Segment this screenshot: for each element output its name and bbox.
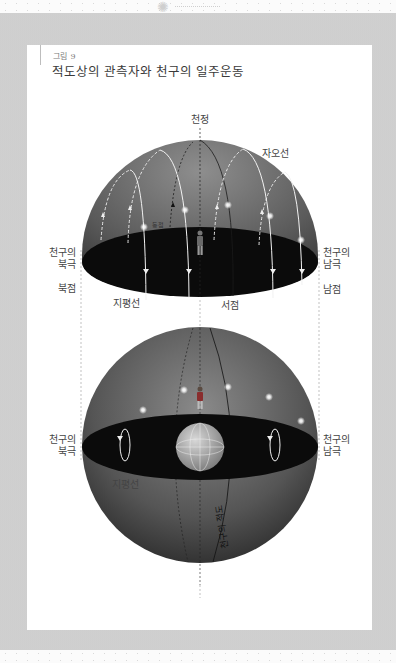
label-north-point: 북점 bbox=[58, 283, 76, 294]
star-icon bbox=[140, 223, 148, 231]
label-east-point: 동점 bbox=[152, 221, 164, 228]
label-north-pole-top-1: 천구의 bbox=[49, 247, 76, 258]
label-south-pole-bottom-1: 천구의 bbox=[323, 434, 350, 445]
label-meridian: 자오선 bbox=[262, 148, 289, 159]
label-south-pole-bottom-2: 남극 bbox=[323, 446, 341, 457]
star-icon bbox=[181, 206, 189, 214]
star-icon bbox=[224, 201, 232, 209]
star-icon bbox=[265, 393, 273, 401]
label-south-point: 남점 bbox=[323, 284, 341, 295]
label-north-pole-top-2: 북극 bbox=[58, 259, 76, 270]
label-zenith: 천정 bbox=[191, 114, 209, 125]
label-horizon-bottom: 지평선 bbox=[112, 479, 139, 490]
label-horizon-top: 지평선 bbox=[113, 298, 140, 309]
bottom-sphere bbox=[82, 327, 318, 585]
star-icon bbox=[297, 417, 305, 425]
star-icon bbox=[297, 236, 305, 244]
label-west-point: 서점 bbox=[221, 300, 239, 311]
star-icon bbox=[139, 406, 147, 414]
star-icon bbox=[224, 383, 232, 391]
earth-globe bbox=[176, 423, 224, 471]
star-icon bbox=[266, 212, 274, 220]
star-icon bbox=[180, 386, 188, 394]
label-north-pole-bottom-2: 북극 bbox=[58, 446, 76, 457]
label-south-pole-top-1: 천구의 bbox=[323, 247, 350, 258]
celestial-diagram: 천정 자오선 동점 천구의 북극 천구의 남극 북점 남점 지평선 서점 천구의… bbox=[0, 0, 396, 663]
label-north-pole-bottom-1: 천구의 bbox=[49, 434, 76, 445]
label-south-pole-top-2: 남극 bbox=[323, 259, 341, 270]
